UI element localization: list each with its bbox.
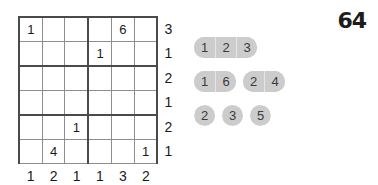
grid-cell-r3c3[interactable]: [65, 66, 88, 91]
grid-cell-r3c1[interactable]: [19, 66, 42, 91]
col-clue-3: 1: [65, 164, 88, 185]
grid-cell-r6c3[interactable]: [65, 140, 88, 164]
pill-group-joined[interactable]: 123: [194, 37, 257, 58]
col-clue-6: 2: [134, 164, 157, 185]
grid-cell-r4c2[interactable]: [42, 91, 65, 116]
grid-cell-r5c1[interactable]: [19, 115, 42, 140]
pill-group-joined[interactable]: 24: [243, 71, 285, 92]
col-clue-2: 2: [42, 164, 65, 185]
grid-cell-r1c5[interactable]: 6: [111, 17, 134, 42]
grid-row: 12: [19, 115, 189, 140]
grid-cell-r1c3[interactable]: [65, 17, 88, 42]
grid-cell-r5c2[interactable]: [42, 115, 65, 140]
pill-value[interactable]: 1: [194, 37, 215, 58]
grid-cell-r2c6[interactable]: [134, 42, 157, 67]
grid-cell-r4c3[interactable]: [65, 91, 88, 116]
puzzle-grid[interactable]: 163112112411121132: [18, 16, 190, 184]
grid-cell-r4c6[interactable]: [134, 91, 157, 116]
grid-row: 1: [19, 91, 189, 116]
row-clue-2: 1: [157, 42, 189, 67]
puzzle-grid-body: 163112112411121132: [19, 17, 189, 184]
pill-value[interactable]: 2: [215, 37, 236, 58]
pill-value[interactable]: 2: [243, 71, 264, 92]
grid-cell-r2c3[interactable]: [65, 42, 88, 67]
row-clue-6: 1: [157, 140, 189, 164]
pill-value[interactable]: 3: [222, 105, 243, 126]
pill-row: 1624: [194, 71, 285, 92]
pill-group-loose[interactable]: 235: [194, 105, 271, 126]
grid-cell-r6c1[interactable]: [19, 140, 42, 164]
grid-cell-r5c3[interactable]: 1: [65, 115, 88, 140]
grid-cell-r6c4[interactable]: [88, 140, 111, 164]
col-clue-1: 1: [19, 164, 42, 185]
grid-cell-r1c1[interactable]: 1: [19, 17, 42, 42]
grid-row: 11: [19, 42, 189, 67]
grid-cell-r6c6[interactable]: 1: [134, 140, 157, 164]
grid-row: 411: [19, 140, 189, 164]
grid-cell-r3c6[interactable]: [134, 66, 157, 91]
grid-cell-r1c2[interactable]: [42, 17, 65, 42]
col-clue-5: 3: [111, 164, 134, 185]
grid-cell-r4c1[interactable]: [19, 91, 42, 116]
grid-cell-r3c2[interactable]: [42, 66, 65, 91]
row-clue-4: 1: [157, 91, 189, 116]
row-clue-1: 3: [157, 17, 189, 42]
row-clue-3: 2: [157, 66, 189, 91]
grid-cell-r5c5[interactable]: [111, 115, 134, 140]
pill-value[interactable]: 6: [215, 71, 236, 92]
grid-cell-r2c5[interactable]: [111, 42, 134, 67]
grid-cell-r1c6[interactable]: [134, 17, 157, 42]
pill-row: 235: [194, 105, 271, 126]
grid-cell-r5c6[interactable]: [134, 115, 157, 140]
col-clue-4: 1: [88, 164, 111, 185]
pill-group-joined[interactable]: 16: [194, 71, 236, 92]
grid-cell-r6c2[interactable]: 4: [42, 140, 65, 164]
puzzle-board-area: 163112112411121132: [0, 0, 190, 184]
pill-value[interactable]: 1: [194, 71, 215, 92]
grid-cell-r3c4[interactable]: [88, 66, 111, 91]
column-clue-row: 121132: [19, 164, 189, 185]
pill-row: 123: [194, 37, 257, 58]
grid-corner-blank: [157, 164, 189, 185]
row-clue-5: 2: [157, 115, 189, 140]
grid-cell-r6c5[interactable]: [111, 140, 134, 164]
score-label: 64: [337, 8, 366, 33]
pill-value[interactable]: 3: [236, 37, 257, 58]
pill-value[interactable]: 5: [250, 105, 271, 126]
grid-row: 163: [19, 17, 189, 42]
grid-cell-r2c4[interactable]: 1: [88, 42, 111, 67]
pill-value[interactable]: 2: [194, 105, 215, 126]
grid-cell-r2c1[interactable]: [19, 42, 42, 67]
grid-cell-r1c4[interactable]: [88, 17, 111, 42]
grid-cell-r3c5[interactable]: [111, 66, 134, 91]
grid-cell-r2c2[interactable]: [42, 42, 65, 67]
side-panel: 64 123 1624 235: [190, 0, 378, 184]
grid-cell-r5c4[interactable]: [88, 115, 111, 140]
grid-cell-r4c4[interactable]: [88, 91, 111, 116]
grid-row: 2: [19, 66, 189, 91]
pill-value[interactable]: 4: [264, 71, 285, 92]
grid-cell-r4c5[interactable]: [111, 91, 134, 116]
